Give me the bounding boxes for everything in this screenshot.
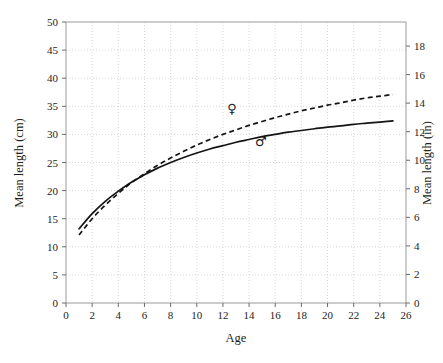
svg-text:12: 12 [217, 309, 228, 321]
x-axis-title: Age [226, 331, 247, 345]
y-axis-left-title: Mean length (cm) [12, 118, 26, 208]
svg-text:25: 25 [47, 157, 59, 169]
female-symbol-icon: ♀ [227, 101, 237, 116]
svg-text:22: 22 [348, 309, 359, 321]
svg-text:50: 50 [47, 16, 59, 28]
svg-text:16: 16 [414, 69, 426, 81]
svg-text:18: 18 [414, 40, 426, 52]
svg-text:4: 4 [414, 240, 420, 252]
svg-text:6: 6 [142, 309, 148, 321]
chart-figure: 0246810121416182022242605101520253035404… [0, 0, 443, 363]
svg-text:0: 0 [414, 297, 420, 309]
svg-text:18: 18 [296, 309, 308, 321]
svg-text:15: 15 [47, 213, 59, 225]
tick-labels: 0246810121416182022242605101520253035404… [47, 16, 426, 321]
svg-text:2: 2 [89, 309, 95, 321]
svg-text:0: 0 [63, 309, 69, 321]
svg-text:40: 40 [47, 72, 59, 84]
growth-curve-chart: 0246810121416182022242605101520253035404… [0, 0, 443, 363]
tick-marks [62, 22, 410, 307]
svg-text:26: 26 [401, 309, 413, 321]
male-symbol-icon: ♂ [255, 134, 267, 149]
series-line-male [79, 121, 393, 229]
svg-text:16: 16 [270, 309, 282, 321]
svg-text:6: 6 [414, 211, 420, 223]
svg-text:8: 8 [168, 309, 174, 321]
svg-text:45: 45 [47, 44, 59, 56]
svg-text:2: 2 [414, 268, 420, 280]
svg-text:14: 14 [414, 97, 426, 109]
svg-text:0: 0 [53, 297, 59, 309]
svg-text:5: 5 [53, 269, 59, 281]
svg-text:24: 24 [374, 309, 386, 321]
svg-text:10: 10 [191, 309, 203, 321]
y-axis-right-title: Mean length (in) [420, 121, 434, 205]
grid-lines [66, 22, 406, 303]
svg-text:10: 10 [47, 241, 59, 253]
svg-text:20: 20 [322, 309, 334, 321]
svg-text:4: 4 [116, 309, 122, 321]
svg-text:30: 30 [47, 128, 59, 140]
svg-text:35: 35 [47, 100, 59, 112]
series-annotations: ♀ ♂ [227, 101, 266, 149]
svg-text:20: 20 [47, 185, 59, 197]
svg-text:14: 14 [244, 309, 256, 321]
